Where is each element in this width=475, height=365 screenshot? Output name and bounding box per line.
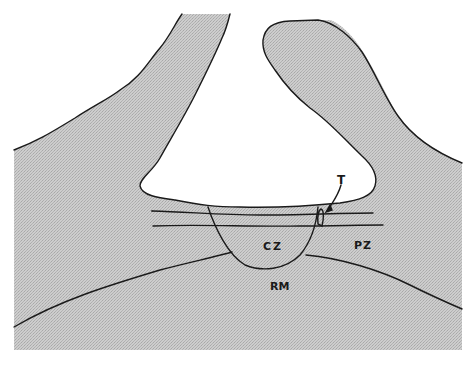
label-pz: PZ bbox=[354, 239, 372, 252]
label-cz: CZ bbox=[263, 240, 283, 253]
diagram-figure: T CZ PZ RM bbox=[0, 0, 475, 365]
label-t: T bbox=[337, 173, 346, 187]
tissue-region bbox=[14, 14, 462, 350]
label-rm: RM bbox=[270, 280, 289, 293]
